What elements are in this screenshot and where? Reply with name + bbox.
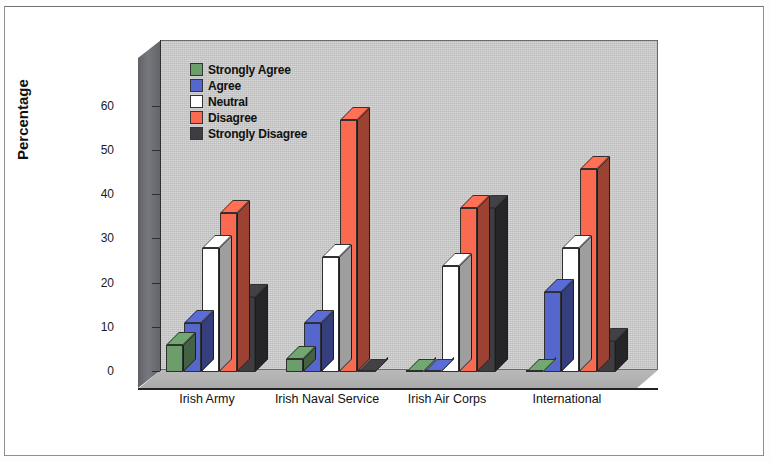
legend-item: Disagree [190, 110, 307, 125]
y-axis-tick-label: 40 [74, 187, 114, 201]
y-axis-tick [152, 194, 160, 195]
x-axis-label: International [533, 392, 602, 406]
bar [526, 372, 543, 373]
x-axis-label: Irish Naval Service [275, 392, 379, 406]
legend-item: Agree [190, 78, 307, 93]
bar [166, 345, 183, 372]
legend-label: Agree [208, 79, 241, 93]
bar-front-face [166, 345, 183, 372]
bar-front-face [358, 370, 375, 372]
bar-side-face [219, 235, 232, 372]
y-axis-tick [152, 327, 160, 328]
y-axis-tick [152, 238, 160, 239]
legend-swatch [190, 127, 203, 140]
legend-item: Strongly Disagree [190, 126, 307, 141]
legend-item: Strongly Agree [190, 62, 307, 77]
y-axis-title: Percentage [14, 79, 31, 160]
legend-label: Strongly Disagree [208, 127, 307, 141]
x-axis-label: Irish Army [179, 392, 235, 406]
bar [406, 372, 423, 373]
bar-side-face [237, 200, 250, 372]
bar-side-face [495, 195, 508, 372]
y-axis-tick-label: 30 [74, 231, 114, 245]
bar-front-face [424, 370, 441, 372]
figure-page: Percentage Irish ArmyIrish Naval Service… [0, 0, 771, 462]
bar [442, 266, 459, 372]
legend-label: Strongly Agree [208, 63, 291, 77]
y-axis-tick-label: 50 [74, 143, 114, 157]
legend-item: Neutral [190, 94, 307, 109]
legend-swatch [190, 79, 203, 92]
chart-legend: Strongly AgreeAgreeNeutralDisagreeStrong… [190, 62, 307, 142]
bar-side-face [255, 284, 268, 372]
bar [358, 372, 375, 373]
y-axis-tick [152, 150, 160, 151]
legend-label: Neutral [208, 95, 248, 109]
x-axis-label: Irish Air Corps [408, 392, 487, 406]
y-axis-tick [152, 106, 160, 107]
bar-side-face [459, 253, 472, 372]
legend-swatch [190, 111, 203, 124]
bar [424, 372, 441, 373]
legend-swatch [190, 63, 203, 76]
legend-swatch [190, 95, 203, 108]
bar-front-face [526, 370, 543, 372]
bar-side-face [579, 235, 592, 372]
bar-side-face [561, 279, 574, 372]
bar-side-face [597, 156, 610, 372]
bar-front-face [406, 370, 423, 372]
bar-side-face [477, 195, 490, 372]
bar-side-face [339, 244, 352, 372]
y-axis-tick [152, 283, 160, 284]
bar-chart: Percentage Irish ArmyIrish Naval Service… [118, 40, 678, 380]
bar [286, 359, 303, 372]
y-axis-tick [152, 371, 160, 372]
bar-front-face [442, 266, 459, 372]
y-axis-tick-label: 60 [74, 99, 114, 113]
bar-front-face [286, 359, 303, 372]
y-axis-tick-label: 10 [74, 320, 114, 334]
legend-label: Disagree [208, 111, 257, 125]
y-axis-tick-label: 0 [74, 364, 114, 378]
bar-side-face [357, 107, 370, 372]
y-axis-tick-label: 20 [74, 276, 114, 290]
